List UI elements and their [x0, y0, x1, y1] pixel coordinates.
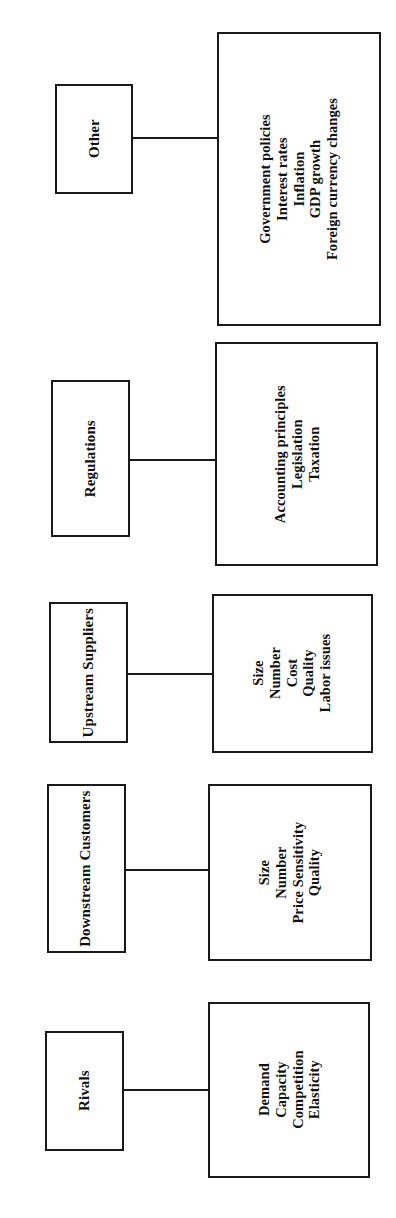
category-label-line: Upstream [80, 673, 96, 737]
category-label-line: Suppliers [80, 608, 96, 670]
connector-line-downstream-customers [125, 869, 209, 871]
detail-item: Foreign currency changes [324, 98, 341, 260]
detail-list-rivals: Demand Capacity Competition Elasticity [255, 1051, 322, 1129]
connector-line-upstream-suppliers [127, 673, 213, 675]
category-label-upstream-suppliers: Upstream Suppliers [80, 608, 97, 737]
detail-item: Elasticity [306, 1051, 323, 1129]
detail-item: Quality [307, 822, 324, 924]
business-environment-diagram: Other Government policies Interest rates… [0, 0, 396, 1218]
detail-item: Competition [289, 1051, 306, 1129]
detail-item: Cost [284, 634, 301, 713]
detail-box-regulations[interactable]: Accounting principles Legislation Taxati… [215, 342, 378, 566]
detail-item: GDP growth [307, 98, 324, 260]
category-box-other[interactable]: Other [55, 84, 133, 194]
category-box-regulations[interactable]: Regulations [51, 380, 130, 537]
detail-item: Government policies [257, 98, 274, 260]
category-box-rivals[interactable]: Rivals [45, 1031, 124, 1151]
category-label-downstream-customers: Downstream Customers [78, 790, 95, 946]
detail-list-downstream-customers: Size Number Price Sensitivity Quality [256, 822, 323, 924]
connector-line-other [132, 137, 218, 139]
detail-item: Number [267, 634, 284, 713]
detail-item: Size [250, 634, 267, 713]
category-label-regulations: Regulations [82, 420, 99, 497]
detail-item: Labor issues [318, 634, 335, 713]
detail-list-other: Government policies Interest rates Infla… [257, 98, 341, 260]
detail-item: Capacity [272, 1051, 289, 1129]
connector-line-rivals [123, 1089, 209, 1091]
category-box-upstream-suppliers[interactable]: Upstream Suppliers [49, 602, 128, 743]
detail-list-upstream-suppliers: Size Number Cost Quality Labor issues [250, 634, 334, 713]
category-label-rivals: Rivals [76, 1071, 93, 1112]
detail-item: Legislation [288, 385, 305, 523]
detail-item: Inflation [291, 98, 308, 260]
detail-item: Accounting principles [271, 385, 288, 523]
category-label-line: Customers [78, 790, 94, 860]
detail-item: Demand [255, 1051, 272, 1129]
category-label-other: Other [85, 120, 102, 159]
detail-box-rivals[interactable]: Demand Capacity Competition Elasticity [208, 1002, 370, 1178]
detail-item: Interest rates [274, 98, 291, 260]
connector-line-regulations [129, 459, 216, 461]
detail-box-other[interactable]: Government policies Interest rates Infla… [217, 32, 381, 326]
detail-box-downstream-customers[interactable]: Size Number Price Sensitivity Quality [208, 784, 372, 961]
detail-list-regulations: Accounting principles Legislation Taxati… [271, 385, 321, 523]
category-label-line: Downstream [78, 864, 94, 946]
detail-item: Price Sensitivity [290, 822, 307, 924]
detail-box-upstream-suppliers[interactable]: Size Number Cost Quality Labor issues [212, 594, 373, 753]
detail-item: Size [256, 822, 273, 924]
detail-item: Taxation [305, 385, 322, 523]
category-box-downstream-customers[interactable]: Downstream Customers [47, 784, 126, 953]
detail-item: Quality [301, 634, 318, 713]
detail-item: Number [273, 822, 290, 924]
